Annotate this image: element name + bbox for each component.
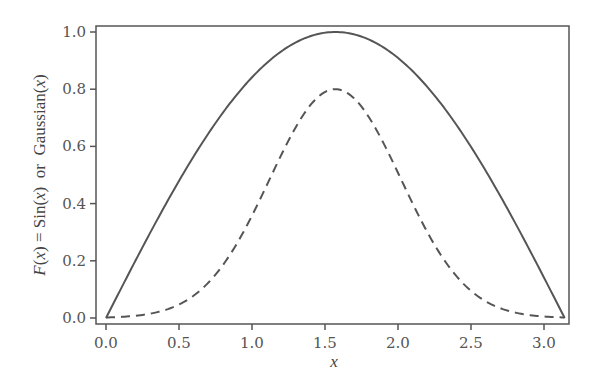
y-axis-label: F(x) = Sin(x) or Gaussian(x) [30, 74, 49, 276]
y-axis: 0.00.20.40.60.81.0 [62, 23, 96, 327]
x-tick-label: 3.0 [532, 334, 556, 352]
x-tick-label: 2.0 [386, 334, 410, 352]
y-tick-label: 1.0 [62, 23, 86, 41]
x-tick-label: 1.0 [240, 334, 264, 352]
y-tick-label: 0.6 [62, 137, 86, 155]
y-tick-label: 0.4 [62, 195, 86, 213]
gaussian-series-line [106, 89, 565, 317]
x-tick-label: 2.5 [459, 334, 483, 352]
x-tick-label: 0.0 [94, 334, 118, 352]
x-tick-label: 0.5 [167, 334, 191, 352]
y-tick-label: 0.2 [62, 252, 86, 270]
x-tick-label: 1.5 [313, 334, 337, 352]
chart: 0.00.51.01.52.02.53.0 0.00.20.40.60.81.0… [0, 0, 594, 392]
plot-frame [96, 26, 569, 324]
x-axis: 0.00.51.01.52.02.53.0 [94, 324, 556, 352]
y-tick-label: 0.8 [62, 80, 86, 98]
sin-series-line [106, 32, 565, 318]
y-tick-label: 0.0 [62, 309, 86, 327]
x-axis-label: x [329, 352, 338, 371]
